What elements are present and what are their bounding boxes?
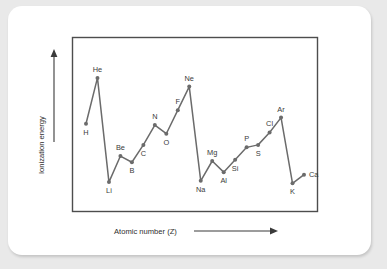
data-point-ca: [302, 173, 306, 177]
point-label-al: Al: [220, 176, 227, 185]
data-point-b: [130, 160, 134, 164]
data-point-h: [84, 122, 88, 126]
data-point-si: [233, 158, 237, 162]
point-label-s: S: [256, 149, 261, 158]
point-label-k: K: [290, 187, 295, 196]
data-point-n: [153, 123, 157, 127]
data-point-al: [222, 170, 226, 174]
point-label-h: H: [83, 128, 88, 137]
point-label-be: Be: [116, 143, 125, 152]
point-label-ne: Ne: [185, 74, 194, 83]
point-label-c: C: [141, 149, 147, 158]
point-label-cl: Cl: [266, 119, 273, 128]
x-axis-arrow: [194, 228, 278, 235]
data-point-c: [141, 143, 145, 147]
data-point-o: [164, 132, 168, 136]
data-point-mg: [210, 159, 214, 163]
data-point-be: [118, 154, 122, 158]
data-point-k: [291, 181, 295, 185]
data-point-ne: [187, 85, 191, 89]
data-point-cl: [268, 130, 272, 134]
point-label-f: F: [176, 97, 181, 106]
y-axis-label: Ionization energy: [37, 116, 46, 174]
y-axis-arrow: [51, 49, 58, 142]
data-point-ar: [279, 116, 283, 120]
point-label-ar: Ar: [277, 105, 285, 114]
point-label-mg: Mg: [207, 148, 217, 157]
figure-card: Ionization energy Atomic number (Z) HHeL…: [8, 6, 371, 255]
point-label-si: Si: [232, 164, 239, 173]
data-point-na: [199, 179, 203, 183]
point-label-n: N: [152, 112, 157, 121]
x-axis-label: Atomic number (Z): [114, 227, 177, 236]
data-point-p: [245, 145, 249, 149]
data-point-li: [107, 180, 111, 184]
data-point-s: [256, 143, 260, 147]
data-point-he: [95, 76, 99, 80]
point-label-he: He: [93, 65, 102, 74]
chart-svg: Ionization energy Atomic number (Z) HHeL…: [8, 6, 371, 255]
point-label-li: Li: [106, 186, 112, 195]
point-label-o: O: [163, 138, 169, 147]
ionization-energy-chart: Ionization energy Atomic number (Z) HHeL…: [8, 6, 371, 255]
ionization-energy-line: [86, 78, 304, 183]
point-label-p: P: [244, 134, 249, 143]
point-label-b: B: [129, 166, 134, 175]
point-label-ca: Ca: [309, 170, 319, 179]
data-point-f: [176, 108, 180, 112]
point-label-na: Na: [196, 185, 206, 194]
